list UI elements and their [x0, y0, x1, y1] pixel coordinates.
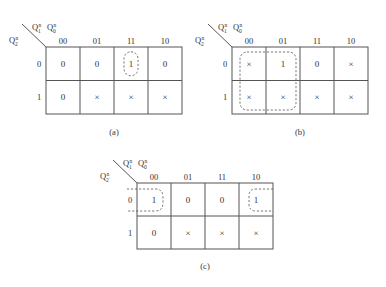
- kmap-cell-value: ×: [246, 59, 251, 69]
- kmap-cell-value: 1: [254, 195, 259, 205]
- column-header: 01: [184, 172, 193, 182]
- kmap-cell-value: 0: [220, 195, 225, 205]
- kmap-cell-value: 1: [152, 195, 157, 205]
- row-header: 1: [128, 228, 132, 238]
- column-header: 00: [245, 36, 254, 46]
- kmap-cell-value: 0: [186, 195, 191, 205]
- kmap-cell-value: 0: [152, 228, 157, 238]
- kmap-cell-value: 0: [95, 59, 100, 69]
- kmap-cell-value: ×: [246, 92, 251, 102]
- kmap-cell-value: ×: [128, 92, 133, 102]
- group-loop-right: [249, 189, 273, 211]
- kmap-cell-value: ×: [94, 92, 99, 102]
- group-loop-left: [127, 189, 163, 211]
- svg-text:Qn0: Qn0: [47, 22, 56, 34]
- column-header: 10: [252, 172, 261, 182]
- kmap-cell-value: 1: [281, 59, 286, 69]
- row-header: 0: [37, 59, 41, 69]
- kmap-cell-value: ×: [348, 92, 353, 102]
- map-caption: (a): [109, 127, 119, 137]
- karnaugh-maps-figure: Qn1Qn0Qn2000111100100100×××(a) Qn1Qn0Qn2…: [0, 0, 386, 287]
- column-variables-label: Qn1Qn0: [218, 22, 242, 34]
- kmap-cell-value: ×: [219, 228, 224, 238]
- kmap-cell-value: 0: [61, 92, 66, 102]
- map-caption: (b): [295, 127, 305, 137]
- column-header: 11: [313, 36, 321, 46]
- svg-text:Qn0: Qn0: [233, 22, 242, 34]
- column-variables-label: Qn1Qn0: [32, 22, 56, 34]
- column-header: 10: [347, 36, 356, 46]
- svg-text:Qn1: Qn1: [218, 22, 227, 34]
- map-caption: (c): [200, 261, 210, 271]
- kmap-cell-value: ×: [348, 59, 353, 69]
- row-variable-label: Qn2: [9, 35, 18, 47]
- column-variables-label: Qn1Qn0: [123, 158, 147, 170]
- row-header: 1: [223, 92, 227, 102]
- kmap-cell-value: ×: [162, 92, 167, 102]
- svg-text:Qn2: Qn2: [195, 35, 204, 47]
- row-header: 1: [37, 92, 41, 102]
- kmap-cell-value: 0: [315, 59, 320, 69]
- column-header: 11: [127, 36, 135, 46]
- kmap-b: Qn1Qn0Qn20001111001×10×××××(b): [195, 22, 368, 138]
- column-header: 01: [93, 36, 102, 46]
- column-header: 00: [150, 172, 159, 182]
- kmap-cell-value: ×: [314, 92, 319, 102]
- column-header: 01: [279, 36, 288, 46]
- kmap-cell-value: 1: [129, 59, 134, 69]
- svg-text:Qn1: Qn1: [32, 22, 41, 34]
- svg-text:Qn0: Qn0: [138, 158, 147, 170]
- kmap-cell-value: 0: [61, 59, 66, 69]
- row-header: 0: [223, 59, 227, 69]
- column-header: 10: [161, 36, 170, 46]
- row-variable-label: Qn2: [100, 171, 109, 183]
- kmap-cell-value: ×: [280, 92, 285, 102]
- row-variable-label: Qn2: [195, 35, 204, 47]
- row-header: 0: [128, 195, 132, 205]
- kmap-cell-value: ×: [185, 228, 190, 238]
- kmap-a: Qn1Qn0Qn2000111100100100×××(a): [9, 22, 182, 138]
- column-header: 00: [59, 36, 68, 46]
- kmap-c: Qn1Qn0Qn2000111100110010×××(c): [100, 158, 273, 272]
- column-header: 11: [218, 172, 226, 182]
- svg-text:Qn2: Qn2: [100, 171, 109, 183]
- kmap-cell-value: ×: [253, 228, 258, 238]
- kmap-cell-value: 0: [163, 59, 168, 69]
- svg-text:Qn2: Qn2: [9, 35, 18, 47]
- svg-text:Qn1: Qn1: [123, 158, 132, 170]
